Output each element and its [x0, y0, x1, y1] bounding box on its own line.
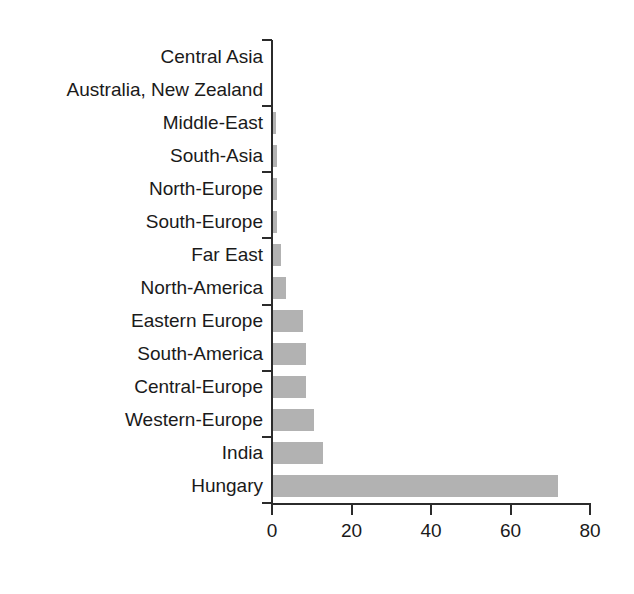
x-axis-tick	[510, 505, 512, 515]
bar	[273, 211, 277, 233]
bar	[273, 376, 306, 398]
bar-row: South-Asia	[0, 139, 634, 172]
category-label: North-America	[141, 278, 271, 298]
category-label: Eastern Europe	[131, 311, 271, 331]
category-label: Western-Europe	[125, 410, 271, 430]
bar-row: Australia, New Zealand	[0, 73, 634, 106]
x-axis-tick	[351, 505, 353, 515]
plot-area: 020406080 Central AsiaAustralia, New Zea…	[0, 0, 634, 594]
category-label: India	[222, 443, 271, 463]
bar	[273, 145, 277, 167]
bar	[273, 409, 314, 431]
x-axis-tick	[430, 505, 432, 515]
bar	[273, 310, 303, 332]
category-label: Central-Europe	[134, 377, 271, 397]
category-label: South-Europe	[146, 212, 271, 232]
bar	[273, 112, 276, 134]
category-label: South-America	[137, 344, 271, 364]
bar	[273, 343, 306, 365]
bar	[273, 178, 277, 200]
x-axis-tick-label: 40	[420, 520, 441, 542]
x-axis-tick-label: 60	[500, 520, 521, 542]
bar	[273, 244, 281, 266]
bar-row: India	[0, 437, 634, 470]
category-label: Far East	[191, 245, 271, 265]
bar	[273, 475, 558, 497]
bar-row: North-Europe	[0, 172, 634, 205]
category-label: Central Asia	[161, 47, 271, 67]
bar-row: Middle-East	[0, 106, 634, 139]
x-axis-tick	[271, 505, 273, 515]
bar-row: Central-Europe	[0, 371, 634, 404]
category-label: Hungary	[191, 476, 271, 496]
bar-row: Far East	[0, 238, 634, 271]
bar-chart: 020406080 Central AsiaAustralia, New Zea…	[0, 0, 634, 594]
bar-row: Central Asia	[0, 40, 634, 73]
bar-row: South-Europe	[0, 205, 634, 238]
x-axis-end-cap	[589, 505, 591, 515]
bar	[273, 277, 286, 299]
x-axis-tick-label: 80	[579, 520, 600, 542]
bar-row: Eastern Europe	[0, 305, 634, 338]
category-label: North-Europe	[149, 179, 271, 199]
x-axis-tick-label: 0	[267, 520, 278, 542]
bar-row: North-America	[0, 272, 634, 305]
category-label: Middle-East	[163, 113, 271, 133]
bar-row: Western-Europe	[0, 404, 634, 437]
bar-row: South-America	[0, 338, 634, 371]
category-label: Australia, New Zealand	[67, 80, 271, 100]
bar-row: Hungary	[0, 470, 634, 503]
bar	[273, 442, 323, 464]
x-axis-tick-label: 20	[341, 520, 362, 542]
category-label: South-Asia	[170, 146, 271, 166]
